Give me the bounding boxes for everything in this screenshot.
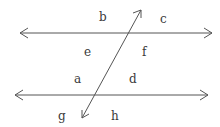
label-d: d (129, 72, 137, 86)
label-b: b (99, 10, 107, 24)
label-g: g (58, 109, 66, 123)
label-a: a (74, 72, 81, 86)
label-c: c (160, 12, 167, 26)
parallel-lines-diagram: b c e f a d g h (0, 0, 220, 127)
label-h: h (111, 109, 119, 123)
top-parallel-line (20, 28, 212, 38)
bottom-parallel-line (15, 90, 208, 100)
label-e: e (84, 45, 91, 59)
transversal-line (82, 10, 141, 118)
label-f: f (142, 45, 148, 59)
